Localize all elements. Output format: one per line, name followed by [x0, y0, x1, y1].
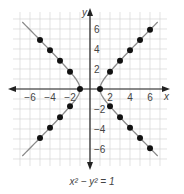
data-point [37, 135, 43, 141]
data-point [37, 37, 43, 43]
x-tick-label: 2 [107, 92, 113, 103]
y-tick-label: 4 [94, 44, 100, 55]
x-axis-label: x [163, 91, 170, 102]
data-point [147, 27, 153, 33]
data-point [57, 114, 63, 120]
data-point [67, 69, 73, 75]
data-point [127, 125, 133, 131]
x-tick-label: −4 [44, 92, 56, 103]
equation-caption: x² − y² = 1 [0, 176, 184, 187]
y-axis-down-arrow-icon [87, 162, 93, 170]
data-point [47, 125, 53, 131]
y-tick-label: −4 [94, 124, 106, 135]
y-tick-label: 2 [94, 64, 100, 75]
y-tick-label: −6 [94, 144, 106, 155]
data-point [127, 47, 133, 53]
y-tick-label: −2 [94, 104, 106, 115]
x-tick-label: 4 [127, 92, 133, 103]
x-tick-label: 6 [147, 92, 153, 103]
data-point [147, 145, 153, 151]
x-axis-left-arrow-icon [8, 86, 16, 92]
x-tick-label: −6 [24, 92, 36, 103]
data-point [117, 58, 123, 64]
data-point [137, 135, 143, 141]
x-tick-label: −2 [64, 92, 76, 103]
hyperbola-plot: −6−4−2246642−2−4−6 x y [0, 0, 184, 194]
y-tick-label: 6 [94, 24, 100, 35]
y-axis-up-arrow-icon [87, 8, 93, 16]
data-point [97, 86, 103, 92]
data-point [77, 86, 83, 92]
data-point [107, 103, 113, 109]
data-point [57, 58, 63, 64]
data-point [137, 37, 143, 43]
data-point [107, 69, 113, 75]
data-point [47, 47, 53, 53]
y-axis-label: y [81, 7, 88, 18]
data-point [67, 103, 73, 109]
data-point [117, 114, 123, 120]
